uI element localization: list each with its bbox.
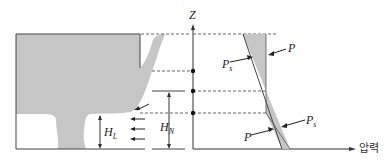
z-axis-label: Z bbox=[189, 9, 196, 21]
level-dot-2 bbox=[191, 89, 195, 93]
pressure-graph bbox=[191, 24, 356, 151]
level-dot-1 bbox=[191, 69, 195, 73]
p-label-bottom: P bbox=[244, 131, 251, 143]
ps-label-top: Ps bbox=[222, 58, 232, 73]
pressure-area-upper bbox=[243, 34, 266, 91]
fluid-region bbox=[16, 34, 165, 149]
level-dot-3 bbox=[191, 111, 195, 115]
pressure-area-lower bbox=[266, 91, 290, 149]
p-label-top: P bbox=[288, 42, 295, 54]
hn-label: HN bbox=[160, 121, 174, 136]
pressure-axis-label: 압력 bbox=[359, 143, 379, 154]
hl-label: HL bbox=[104, 126, 117, 141]
pressure-diagram bbox=[0, 0, 386, 164]
ps-label-bottom: Ps bbox=[306, 114, 316, 129]
